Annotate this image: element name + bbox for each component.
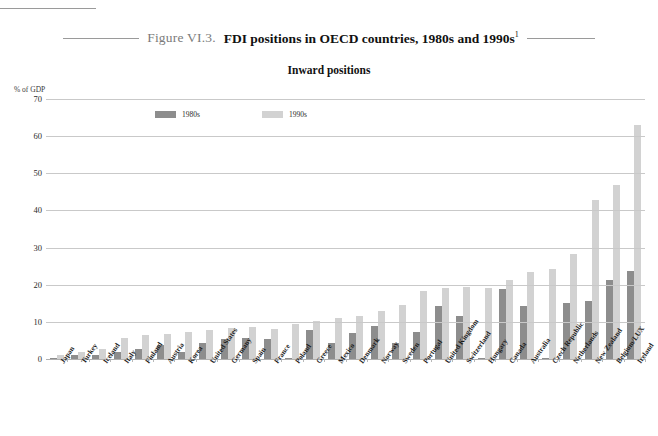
bar-group <box>324 99 345 359</box>
legend-swatch-1990s <box>262 111 283 118</box>
footnote-marker: 1 <box>515 30 519 39</box>
y-tick-label-10: 10 <box>12 317 42 327</box>
bar-group <box>132 99 153 359</box>
bar-group <box>110 99 131 359</box>
gridline-70 <box>46 99 645 100</box>
bar-group <box>89 99 110 359</box>
gridline-50 <box>46 173 645 174</box>
bar-group <box>367 99 388 359</box>
bar-group <box>153 99 174 359</box>
bar-group <box>281 99 302 359</box>
bar-group <box>581 99 602 359</box>
figure-subtitle: Inward positions <box>0 64 658 76</box>
bar-1990s <box>420 291 427 359</box>
title-rule-left <box>63 38 139 39</box>
figure-number: Figure VI.3. <box>147 30 216 46</box>
bar-group <box>538 99 559 359</box>
bar-group <box>410 99 431 359</box>
gridline-20 <box>46 285 645 286</box>
y-tick-label-20: 20 <box>12 280 42 290</box>
bar-group <box>217 99 238 359</box>
bar-group <box>46 99 67 359</box>
y-tick-label-50: 50 <box>12 168 42 178</box>
bar-group <box>67 99 88 359</box>
y-axis-unit-label: % of GDP <box>14 85 45 94</box>
title-rule-right <box>527 38 595 39</box>
bar-group <box>239 99 260 359</box>
bar-group <box>260 99 281 359</box>
bar-1990s <box>442 288 449 359</box>
gridline-10 <box>46 322 645 323</box>
legend-swatch-1980s <box>155 111 176 118</box>
legend-label: 1990s <box>289 110 307 119</box>
bar-group <box>602 99 623 359</box>
x-axis-category-labels: JapanTurkeyIcelandItalyFinlandAustriaKor… <box>46 360 645 434</box>
y-axis-tick-labels: 706050403020100 <box>12 99 42 359</box>
y-tick-label-0: 0 <box>12 354 42 364</box>
chart-plot-area <box>46 99 645 359</box>
bar-group <box>495 99 516 359</box>
legend-item-1990s: 1990s <box>262 110 307 119</box>
y-tick-label-60: 60 <box>12 131 42 141</box>
figure-title-text: FDI positions in OECD countries, 1980s a… <box>224 31 515 46</box>
chart-legend: 1980s1990s <box>155 110 307 119</box>
page-title: FDI positions in OECD countries, 1980s a… <box>224 30 519 47</box>
bar-group <box>196 99 217 359</box>
gridline-30 <box>46 248 645 249</box>
bar-group <box>624 99 645 359</box>
bar-group <box>388 99 409 359</box>
legend-item-1980s: 1980s <box>155 110 200 119</box>
bar-1990s <box>549 269 556 359</box>
bar-series-container <box>46 99 645 359</box>
y-tick-label-40: 40 <box>12 205 42 215</box>
bar-group <box>346 99 367 359</box>
gridline-40 <box>46 210 645 211</box>
bar-1990s <box>485 288 492 359</box>
gridline-60 <box>46 136 645 137</box>
bar-group <box>517 99 538 359</box>
y-tick-label-70: 70 <box>12 94 42 104</box>
bar-1990s <box>506 280 513 359</box>
y-tick-label-30: 30 <box>12 243 42 253</box>
figure-title-row: Figure VI.3. FDI positions in OECD count… <box>0 30 658 47</box>
bar-group <box>174 99 195 359</box>
bar-group <box>431 99 452 359</box>
legend-label: 1980s <box>182 110 200 119</box>
top-decorative-rule <box>0 8 96 9</box>
bar-group <box>303 99 324 359</box>
